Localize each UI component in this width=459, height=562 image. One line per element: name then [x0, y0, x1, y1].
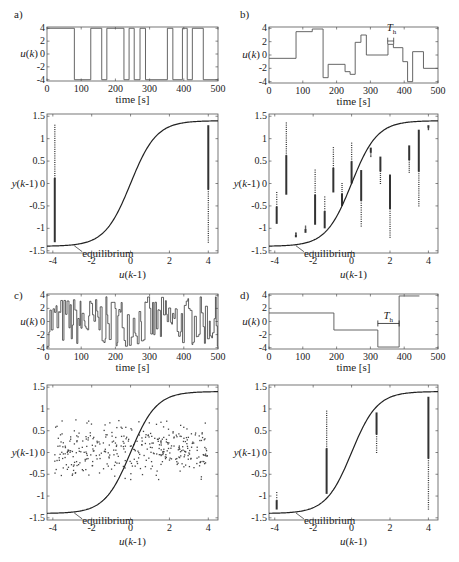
y-tick-label: -2 [259, 63, 267, 73]
y-tick-label: -1.5 [29, 513, 45, 523]
data-cluster [324, 196, 325, 228]
equilibrium-curve-c [47, 392, 218, 514]
top-y-axis-label: u(k) [20, 316, 38, 327]
x-tick-label: 0 [45, 352, 50, 362]
x-tick-label: 4 [426, 256, 431, 266]
bottom-y-axis-label: y(k-1) [12, 447, 38, 458]
data-cluster [389, 175, 390, 238]
x-tick-label: 100 [74, 84, 89, 94]
bottom-x-axis-label: u(k-1) [119, 536, 146, 547]
top-y-axis-label: u(k) [242, 316, 260, 327]
y-tick-label: -4 [37, 343, 45, 353]
y-tick-label: 2 [40, 36, 45, 46]
top-y-axis-label: u(k) [20, 48, 38, 59]
hold-time-label: Th [387, 22, 397, 38]
y-tick-label: -1 [259, 223, 267, 233]
y-tick-label: 0 [262, 179, 267, 189]
x-tick-label: 400 [176, 352, 191, 362]
y-tick-label: 0 [40, 317, 45, 327]
data-cluster [276, 192, 277, 224]
y-tick-label: -0.5 [251, 201, 267, 211]
y-tick-label: 1 [40, 134, 45, 144]
bottom-x-axis-label: u(k-1) [340, 269, 367, 280]
y-tick-label: 0 [40, 448, 45, 458]
data-cluster [295, 232, 296, 237]
y-tick-label: -0.5 [29, 201, 45, 211]
y-tick-label: 0 [262, 317, 267, 327]
x-tick-label: 2 [387, 523, 392, 533]
y-tick-label: 0.5 [33, 156, 46, 166]
x-tick-label: 400 [397, 86, 412, 96]
bottom-x-axis-label: u(k-1) [340, 536, 367, 547]
data-cluster [276, 492, 277, 509]
y-tick-label: -1.5 [251, 513, 267, 523]
data-cluster [428, 397, 429, 510]
y-tick-label: 4 [262, 290, 267, 300]
axes-c-bottom [47, 385, 218, 520]
x-tick-label: 0 [267, 352, 272, 362]
panel-a-letter: a) [14, 9, 23, 20]
data-cluster [314, 170, 315, 225]
bottom-y-axis-label: y(k-1) [234, 447, 260, 458]
y-tick-label: 1.5 [33, 111, 46, 121]
y-tick-label: 0 [262, 448, 267, 458]
x-tick-label: 400 [176, 84, 191, 94]
y-tick-label: -1.5 [251, 246, 267, 256]
y-tick-label: 4 [40, 23, 45, 33]
y-tick-label: 1.5 [255, 111, 268, 121]
data-cluster [376, 412, 377, 453]
x-tick-label: 500 [211, 352, 226, 362]
y-tick-label: 1.5 [33, 382, 46, 392]
hold-time-label: Th [383, 310, 393, 326]
y-tick-label: 2 [40, 303, 45, 313]
y-tick-label: -4 [259, 343, 267, 353]
x-tick-label: 500 [431, 352, 446, 362]
scatter-points [54, 419, 208, 480]
panel-d-letter: d) [240, 290, 249, 301]
x-tick-label: 0 [267, 86, 272, 96]
equilibrium-annotation: equilibrium [304, 248, 355, 259]
equilibrium-annotation: equilibrium [82, 515, 133, 526]
top-x-axis-label: time [s] [116, 94, 150, 105]
y-tick-label: 4 [262, 23, 267, 33]
y-tick-label: -1 [259, 491, 267, 501]
equilibrium-curve-d [269, 392, 438, 514]
top-x-axis-label: time [s] [337, 96, 371, 107]
data-cluster [333, 147, 334, 192]
x-tick-label: -4 [49, 256, 57, 266]
x-tick-label: 400 [397, 352, 412, 362]
y-tick-label: -2 [37, 62, 45, 72]
y-tick-label: 0 [40, 179, 45, 189]
data-cluster [305, 226, 306, 233]
x-tick-label: 100 [295, 352, 310, 362]
y-tick-label: -4 [37, 75, 45, 85]
x-tick-label: -4 [271, 256, 279, 266]
equilibrium-curve-b [269, 121, 438, 246]
data-cluster [380, 157, 381, 184]
data-cluster [418, 130, 419, 207]
y-tick-label: -2 [259, 330, 267, 340]
y-tick-label: 1 [40, 404, 45, 414]
input-signal-b [269, 29, 438, 82]
x-tick-label: 2 [167, 256, 172, 266]
data-cluster [351, 143, 352, 184]
y-tick-label: -4 [259, 77, 267, 87]
panel-c-letter: c) [14, 290, 23, 301]
y-tick-label: -1 [37, 223, 45, 233]
input-signal-a [47, 28, 218, 79]
y-tick-label: 2 [262, 303, 267, 313]
data-cluster [428, 125, 429, 130]
y-tick-label: 0.5 [33, 426, 46, 436]
x-tick-label: 100 [295, 86, 310, 96]
data-cluster [208, 125, 209, 243]
top-x-axis-label: time [s] [337, 362, 371, 373]
x-tick-label: 500 [211, 84, 226, 94]
data-cluster [341, 183, 342, 206]
y-tick-label: 4 [40, 290, 45, 300]
y-tick-label: 0 [262, 50, 267, 60]
data-cluster [370, 148, 371, 157]
x-tick-label: 100 [74, 352, 89, 362]
data-cluster [361, 170, 362, 227]
y-tick-label: 1.5 [255, 382, 268, 392]
input-signal-d [269, 296, 419, 347]
